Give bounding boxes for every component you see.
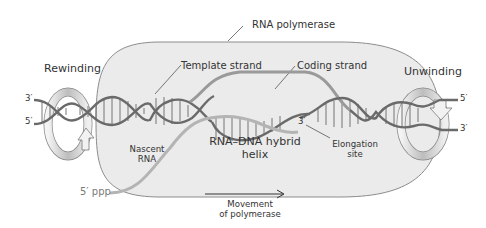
movement-line2: of polymerase (210, 210, 290, 220)
coding-strand-label: Coding strand (297, 60, 367, 72)
hybrid-line1: RNA–DNA hybrid (200, 136, 310, 149)
template-strand-label: Template strand (181, 60, 262, 72)
rna-polymerase-label: RNA polymerase (252, 19, 335, 31)
rewinding-label: Rewinding (44, 63, 101, 76)
right-5prime-label: 5′ (460, 94, 467, 104)
elongation-line2: site (325, 150, 385, 160)
five-prime-ppp-label: 5′ ppp (80, 186, 111, 198)
nascent-rna-label: Nascent RNA (122, 145, 172, 165)
right-3prime-label: 3′ (460, 124, 467, 134)
left-3prime-label: 3′ (25, 94, 32, 104)
nascent-rna-line2: RNA (122, 155, 172, 165)
rna-polymerase-leader (228, 26, 243, 41)
rna-dna-hybrid-label: RNA–DNA hybrid helix (200, 136, 310, 161)
hybrid-line2: helix (200, 149, 310, 162)
left-5prime-label: 5′ (25, 117, 32, 127)
unwinding-label: Unwinding (404, 66, 462, 79)
movement-label: Movement of polymerase (210, 200, 290, 220)
elongation-site-label: Elongation site (325, 140, 385, 160)
transcription-diagram (0, 0, 486, 228)
rna-3prime-label: 3′ (298, 117, 305, 127)
rewinding-arrow-icon (48, 92, 94, 156)
